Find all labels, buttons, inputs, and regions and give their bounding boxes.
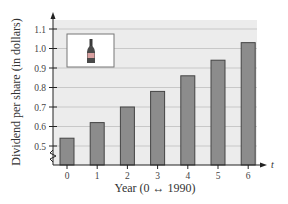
y-axis-title: Dividend per share (in dollars) — [9, 18, 23, 165]
bar — [181, 76, 195, 165]
y-tick-label: 0.8 — [34, 83, 46, 93]
y-tick-label: 0.6 — [34, 122, 46, 132]
x-tick-label: 2 — [125, 171, 130, 181]
bar — [120, 107, 134, 165]
bar — [241, 43, 255, 165]
y-tick-label: 0.9 — [34, 64, 46, 74]
x-tick-label: 5 — [216, 171, 221, 181]
x-axis-variable: t — [271, 159, 274, 170]
x-ticks: 0123456 — [65, 165, 251, 181]
x-tick-label: 3 — [155, 171, 160, 181]
x-axis-arrow — [260, 163, 267, 168]
x-tick-label: 1 — [95, 171, 100, 181]
x-tick-label: 4 — [185, 171, 190, 181]
legend-box — [67, 34, 114, 67]
y-tick-label: 0.7 — [34, 103, 46, 113]
y-tick-label: 0.5 — [34, 142, 46, 152]
x-tick-label: 6 — [246, 171, 251, 181]
y-axis-arrow — [51, 12, 56, 19]
x-tick-label: 0 — [65, 171, 70, 181]
x-axis-title: Year (0 ↔ 1990) — [114, 181, 195, 195]
y-tick-label: 1.1 — [34, 25, 46, 35]
bar — [60, 138, 74, 165]
bar — [211, 60, 225, 165]
bar — [90, 123, 104, 165]
bar — [151, 91, 165, 165]
y-tick-label: 1.0 — [34, 44, 46, 54]
dividend-bar-chart: t 0.50.60.70.80.91.01.1 0123456 Year (0 … — [0, 0, 288, 204]
